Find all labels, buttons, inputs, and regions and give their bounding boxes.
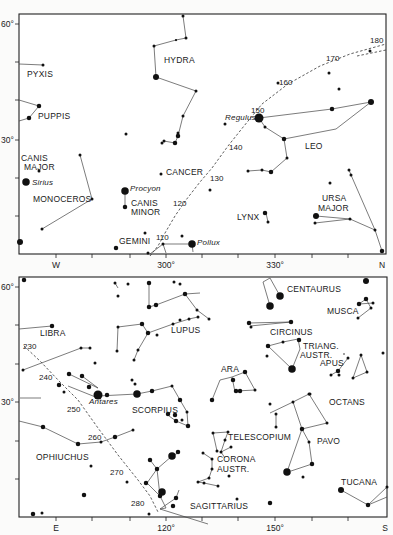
star-icon — [300, 427, 305, 432]
ecliptic-degree-label: 160 — [279, 78, 293, 87]
star-icon — [57, 383, 62, 388]
star-icon — [144, 481, 149, 486]
star-icon — [266, 302, 274, 310]
star-icon — [174, 419, 179, 424]
star-icon — [173, 281, 176, 284]
star-icon — [171, 385, 174, 388]
star-icon — [41, 425, 46, 430]
x-axis-label: N — [379, 260, 385, 270]
star-icon — [146, 331, 151, 336]
star-icon — [380, 249, 385, 254]
star-icon — [263, 211, 268, 216]
constellation-label: PUPPIS — [38, 111, 71, 121]
star-icon — [182, 15, 185, 18]
star-icon — [282, 341, 285, 344]
star-name-label: Procyon — [130, 184, 161, 193]
star-icon — [181, 235, 184, 238]
star-icon — [254, 389, 257, 392]
star-icon — [348, 169, 351, 172]
ecliptic-degree-label: 260 — [88, 433, 102, 442]
star-icon — [264, 126, 267, 129]
star-icon — [90, 465, 93, 468]
star-icon — [144, 232, 147, 235]
star-icon — [286, 157, 289, 160]
star-icon — [338, 88, 341, 91]
star-icon — [370, 307, 373, 310]
star-icon — [114, 246, 119, 251]
ecliptic-degree-label: 280 — [131, 499, 145, 508]
star-name-label: Pollux — [197, 238, 221, 247]
star-icon — [155, 467, 160, 472]
star-icon — [80, 347, 83, 350]
constellation-label: MAJOR — [318, 203, 349, 213]
star-icon — [228, 475, 231, 478]
x-axis-label: E — [53, 523, 59, 533]
star-icon — [175, 39, 177, 41]
star-icon — [288, 365, 296, 373]
star-icon — [162, 243, 165, 246]
x-axis-label: W — [52, 260, 60, 270]
star-icon — [147, 305, 152, 310]
y-axis-label: 30° — [1, 135, 14, 145]
star-icon — [366, 503, 371, 508]
star-icon — [42, 64, 45, 67]
star-icon — [160, 173, 163, 176]
star-icon — [360, 354, 363, 357]
star-icon — [133, 359, 136, 362]
star-name-label: Sirius — [32, 178, 53, 187]
constellation-label: MUSCA — [327, 306, 359, 316]
star-icon — [89, 347, 92, 350]
star-icon — [212, 432, 215, 435]
star-icon — [268, 501, 273, 506]
star-icon — [22, 369, 25, 372]
star-icon — [211, 458, 214, 461]
star-icon — [123, 205, 128, 210]
star-icon — [80, 374, 85, 379]
star-icon — [208, 477, 211, 480]
star-icon — [179, 283, 182, 286]
star-icon — [326, 422, 329, 425]
star-icon — [125, 133, 128, 136]
star-icon — [131, 379, 134, 382]
star-icon — [126, 481, 129, 484]
constellation-label: MONOCEROS — [33, 194, 92, 204]
star-icon — [250, 326, 253, 329]
star-icon — [154, 303, 159, 308]
star-icon — [174, 496, 179, 501]
star-icon — [178, 398, 183, 403]
star-icon — [310, 462, 315, 467]
constellation-label: LIBRA — [40, 328, 66, 338]
star-icon — [363, 278, 369, 284]
star-icon — [179, 319, 182, 322]
star-icon — [181, 419, 184, 422]
constellation-label: URSA — [322, 193, 347, 203]
constellation-label: OCTANS — [329, 397, 365, 407]
star-icon — [338, 374, 341, 377]
ecliptic-degree-label: 130 — [210, 174, 224, 183]
star-icon — [224, 123, 227, 126]
star-icon — [203, 482, 206, 485]
star-icon — [82, 493, 87, 498]
star-icon — [37, 104, 42, 109]
star-icon — [161, 142, 164, 145]
star-icon — [137, 349, 140, 352]
star-icon — [171, 504, 176, 509]
star-icon — [368, 99, 374, 105]
star-icon — [176, 450, 181, 455]
ecliptic-degree-label: 140 — [229, 143, 243, 152]
star-chart: 60°30°W300°330°N110120130140150160170180… — [0, 0, 393, 535]
star-icon — [349, 218, 352, 221]
star-icon — [185, 37, 188, 40]
star-icon — [217, 485, 220, 488]
star-icon — [177, 132, 180, 135]
star-icon — [261, 169, 264, 172]
star-icon — [247, 170, 250, 173]
star-icon — [94, 362, 97, 365]
star-icon — [17, 239, 23, 245]
star-icon — [216, 450, 219, 453]
star-icon — [266, 355, 269, 358]
star-icon — [211, 468, 214, 471]
star-icon — [230, 446, 233, 449]
star-icon — [67, 372, 72, 377]
ecliptic-degree-label: 250 — [67, 405, 81, 414]
